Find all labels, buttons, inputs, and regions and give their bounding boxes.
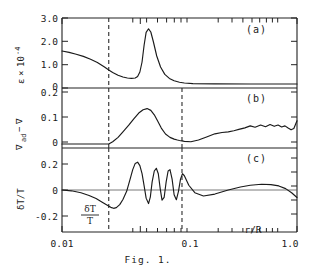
panel-c-label: (c)	[246, 153, 267, 164]
x-axis-title: r/R	[244, 224, 261, 235]
panel-a-ylabel-exponent: -4	[14, 47, 22, 55]
panel-b-ylabel-nabla-ad: ∇	[14, 144, 24, 151]
panel-a-ytick-1: 1.0	[41, 59, 58, 70]
panel-b-ylabel-group: ∇ ad − ∇	[14, 118, 28, 151]
panel-c: 0.2 0 -0.2	[35, 148, 297, 232]
panel-c-ytick-2: 0.2	[41, 159, 58, 170]
panel-a-label: (a)	[246, 24, 267, 35]
panel-c-ytick-1: 0	[52, 185, 58, 196]
panel-b-ylabel-minus: −	[14, 126, 24, 132]
panel-b-ylabel-nabla: ∇	[14, 118, 24, 125]
panel-b-curve	[62, 109, 297, 144]
panel-b-ytick-0: 0	[52, 137, 58, 148]
figure-caption: Fig. 1.	[124, 254, 171, 265]
panel-c-annotation-numerator: δT	[84, 204, 95, 214]
panel-c-xticks	[62, 226, 297, 232]
xtick-label-0: 0.01	[51, 238, 74, 249]
panel-b-ylabel-sub: ad	[20, 134, 28, 142]
panel-c-ytick-0: -0.2	[35, 211, 58, 222]
panel-c-ylabel: δT/T	[16, 188, 26, 210]
panel-b-ytick-1: 0.1	[41, 112, 58, 123]
panel-a-ylabel-base: 10	[16, 56, 26, 67]
panel-a: 3.0 2.0 1.0 0	[41, 13, 297, 93]
panel-a-ytick-2: 2.0	[41, 36, 58, 47]
figure-container: 3.0 2.0 1.0 0	[0, 0, 314, 271]
panel-a-ylabel-symbol: ε	[16, 79, 26, 84]
panel-a-ylabel-group: ε × 10 -4	[14, 47, 26, 84]
panel-b-ytick-2: 0.2	[41, 87, 58, 98]
panel-c-inline-annotation: δT T	[81, 204, 99, 226]
panel-a-ytick-3: 3.0	[41, 13, 58, 24]
panel-c-annotation-denominator: T	[87, 216, 93, 226]
xtick-label-2: 1.0	[281, 238, 298, 249]
three-panel-stellar-figure: 3.0 2.0 1.0 0	[0, 0, 314, 271]
xtick-label-1: 0.1	[181, 238, 198, 249]
panel-b-label: (b)	[246, 93, 267, 104]
panel-a-curve	[62, 29, 297, 84]
panel-a-ylabel-times: ×	[16, 71, 26, 76]
panel-c-curve	[62, 162, 297, 208]
panel-b: 0.2 0.1 0 (b)	[41, 87, 297, 149]
panel-c-ylabel-group: δT/T	[16, 188, 26, 210]
